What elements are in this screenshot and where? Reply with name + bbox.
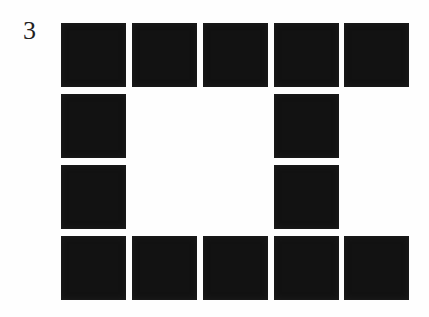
filled-square [61, 236, 126, 300]
filled-square [274, 165, 339, 229]
square-grid-pattern [0, 0, 429, 317]
filled-square [274, 236, 339, 300]
filled-square [203, 23, 268, 87]
filled-square [274, 23, 339, 87]
filled-square [344, 23, 409, 87]
filled-square [61, 94, 126, 158]
filled-square [132, 236, 197, 300]
filled-square [203, 236, 268, 300]
filled-square [344, 236, 409, 300]
filled-square [132, 23, 197, 87]
filled-square [61, 165, 126, 229]
filled-square [61, 23, 126, 87]
filled-square [274, 94, 339, 158]
